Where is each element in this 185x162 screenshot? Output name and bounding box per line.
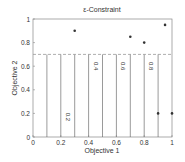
contour-label: 0.6 <box>120 62 126 71</box>
y-tick-label: 1 <box>26 16 30 23</box>
y-tick-label: 0.2 <box>21 110 30 117</box>
data-point <box>129 35 132 38</box>
x-tick-label: 0.2 <box>56 139 65 146</box>
data-point <box>164 24 167 27</box>
chart-title: ε-Constraint <box>83 6 120 13</box>
data-point <box>143 41 146 44</box>
x-tick-label: 0.8 <box>140 139 149 146</box>
x-tick-label: 0 <box>31 139 35 146</box>
contour-label: 0.2 <box>65 113 71 122</box>
x-tick-label: 0.4 <box>84 139 93 146</box>
x-tick-label: 0.6 <box>112 139 121 146</box>
x-tick-label: 1 <box>170 139 174 146</box>
y-tick-label: 0.8 <box>21 39 30 46</box>
y-tick-label: 0.6 <box>21 63 30 70</box>
chart: ε-Constraint 0.20.40.60.8 00.20.40.60.81… <box>0 0 185 162</box>
y-tick-label: 0.4 <box>21 86 30 93</box>
data-point <box>73 30 76 33</box>
y-axis-label: Objective 2 <box>11 60 19 95</box>
x-axis-label: Objective 1 <box>84 147 119 155</box>
data-point <box>157 112 160 115</box>
contour-label: 0.8 <box>148 62 154 71</box>
contour-label: 0.4 <box>93 62 99 71</box>
data-point <box>171 112 174 115</box>
y-tick-label: 0 <box>26 134 30 141</box>
